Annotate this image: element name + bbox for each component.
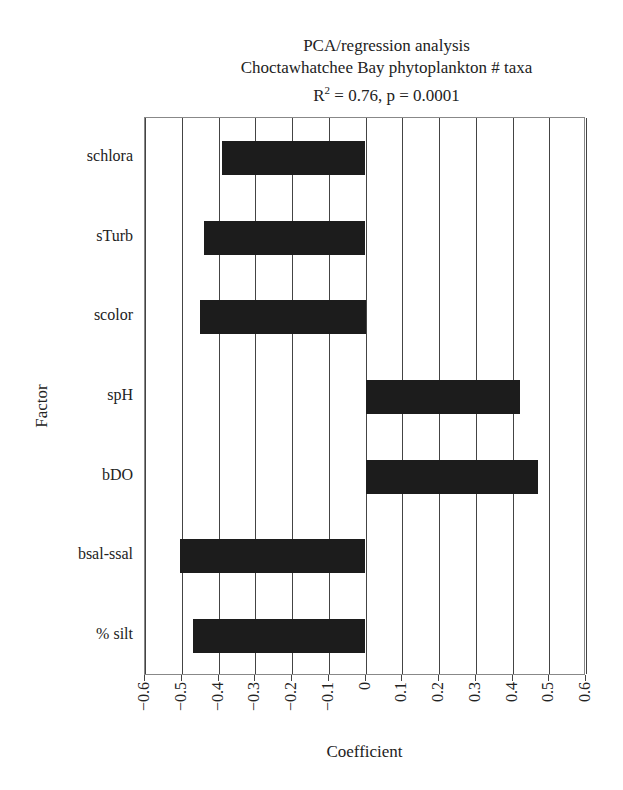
y-category-label: schlora	[87, 147, 133, 165]
x-tick-mark	[401, 675, 402, 681]
gridline	[145, 118, 146, 674]
x-tick-mark	[328, 675, 329, 681]
x-tick-mark	[254, 675, 255, 681]
x-tick-label: −0.6	[135, 682, 153, 711]
x-tick-mark	[291, 675, 292, 681]
y-axis-title: Factor	[32, 376, 52, 436]
x-tick-label: 0.2	[429, 682, 447, 702]
x-tick-mark	[585, 675, 586, 681]
bar-schlora	[222, 141, 365, 175]
bar-bdo	[366, 460, 539, 494]
x-tick-label: −0.4	[209, 682, 227, 711]
gridline	[329, 118, 330, 674]
x-tick-label: 0.5	[539, 682, 557, 702]
x-tick-label: −0.2	[282, 682, 300, 711]
y-category-label: % silt	[96, 625, 133, 643]
y-category-label: sTurb	[96, 227, 133, 245]
gridline	[219, 118, 220, 674]
x-tick-label: 0.6	[576, 682, 594, 702]
x-tick-mark	[181, 675, 182, 681]
chart-stats: R2 = 0.76, p = 0.0001	[150, 79, 623, 107]
gridline	[586, 118, 587, 674]
x-tick-label: −0.3	[245, 682, 263, 711]
x-tick-label: 0	[356, 682, 374, 690]
y-category-label: bDO	[102, 466, 133, 484]
y-category-label: bsal-ssal	[78, 545, 133, 563]
y-category-label: spH	[107, 386, 133, 404]
x-tick-mark	[218, 675, 219, 681]
bar-sph	[366, 380, 520, 414]
bar-scolor	[200, 300, 365, 334]
chart-subtitle: Choctawhatchee Bay phytoplankton # taxa	[150, 57, 623, 79]
plot-area	[144, 117, 585, 675]
x-tick-mark	[144, 675, 145, 681]
gridline	[549, 118, 550, 674]
x-tick-mark	[475, 675, 476, 681]
x-tick-mark	[548, 675, 549, 681]
bar--silt	[193, 619, 366, 653]
bar-bsal-ssal	[180, 539, 366, 573]
x-tick-mark	[365, 675, 366, 681]
y-category-label: scolor	[94, 306, 133, 324]
x-tick-mark	[512, 675, 513, 681]
x-tick-label: −0.1	[319, 682, 337, 711]
x-tick-label: −0.5	[172, 682, 190, 711]
gridline	[255, 118, 256, 674]
gridline	[292, 118, 293, 674]
gridline	[182, 118, 183, 674]
x-axis-title: Coefficient	[144, 742, 585, 762]
x-tick-label: 0.1	[392, 682, 410, 702]
x-tick-label: 0.3	[466, 682, 484, 702]
x-tick-mark	[438, 675, 439, 681]
chart-title: PCA/regression analysis	[150, 35, 623, 57]
x-tick-label: 0.4	[503, 682, 521, 702]
bar-sturb	[204, 221, 366, 255]
